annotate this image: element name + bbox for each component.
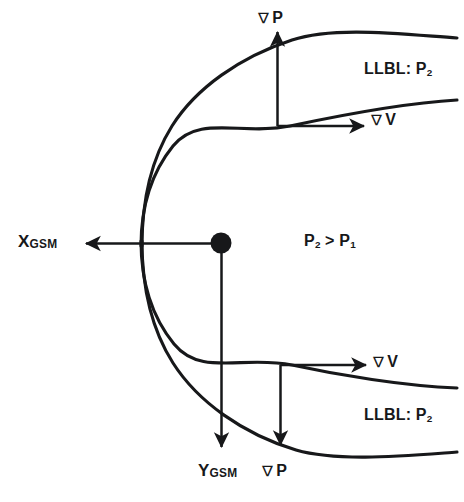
llbl-lower-label: LLBL: P2: [364, 406, 432, 424]
llbl-upper-pressure: P: [416, 60, 427, 77]
inequality-right-subscript: 1: [350, 239, 356, 250]
grad-p-lower-symbol: P: [276, 462, 287, 479]
llbl-upper-pressure-subscript: 2: [427, 67, 433, 78]
x-gsm-symbol: X: [18, 232, 30, 251]
grad-p-upper-label: ∇ P: [258, 8, 283, 27]
nabla-icon: ∇: [373, 353, 384, 370]
y-gsm-axis-label: YGSM: [198, 461, 238, 481]
grad-v-upper-label: ∇ V: [371, 110, 396, 129]
inequality-left-subscript: 2: [315, 239, 321, 250]
outer-boundary-lower-curve: [142, 241, 457, 457]
nabla-icon: ∇: [258, 9, 269, 26]
x-gsm-subscript: GSM: [30, 237, 58, 251]
nabla-icon: ∇: [371, 111, 382, 128]
x-gsm-axis-label: XGSM: [18, 232, 58, 252]
grad-v-upper-symbol: V: [385, 111, 396, 128]
magnetopause-diagram: ∇ P ∇ V LLBL: P2 XGSM P2 > P1 ∇ V LLBL: …: [0, 0, 464, 502]
grad-v-lower-symbol: V: [387, 353, 398, 370]
grad-p-lower-label: ∇ P: [262, 461, 287, 480]
spacecraft-position-dot: [211, 233, 232, 254]
llbl-lower-pressure-subscript: 2: [427, 413, 433, 424]
y-gsm-symbol: Y: [198, 461, 210, 480]
llbl-lower-pressure: P: [416, 406, 427, 423]
y-gsm-subscript: GSM: [210, 466, 238, 480]
grad-p-upper-symbol: P: [272, 9, 283, 26]
grad-v-lower-label: ∇ V: [373, 352, 398, 371]
inequality-left-symbol: P: [304, 232, 315, 249]
nabla-icon: ∇: [262, 462, 273, 479]
inequality-operator: >: [325, 232, 335, 249]
llbl-lower-name: LLBL:: [364, 406, 411, 423]
inequality-right-symbol: P: [339, 232, 350, 249]
pressure-inequality-label: P2 > P1: [304, 232, 356, 250]
llbl-upper-label: LLBL: P2: [364, 60, 432, 78]
llbl-upper-name: LLBL:: [364, 60, 411, 77]
inner-boundary-upper-curve: [141, 100, 457, 246]
